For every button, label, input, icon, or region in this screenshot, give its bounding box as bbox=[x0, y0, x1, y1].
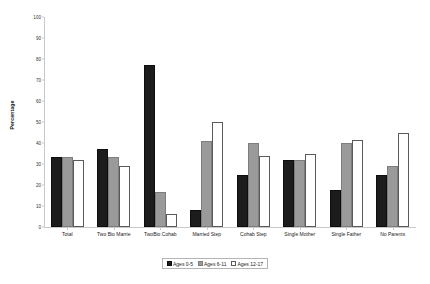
y-axis-title: Percentage bbox=[9, 85, 15, 145]
bar-group-bars bbox=[137, 17, 184, 227]
x-axis-tick-mark bbox=[207, 227, 208, 230]
bar bbox=[330, 190, 341, 227]
bar-group bbox=[91, 17, 138, 227]
bar-group-bars bbox=[277, 17, 324, 227]
bar-group bbox=[230, 17, 277, 227]
chart-legend: Ages 0-5 Ages 6-11 Ages 12-17 bbox=[162, 258, 268, 269]
bar bbox=[62, 157, 73, 227]
bar bbox=[283, 160, 294, 227]
bar bbox=[294, 160, 305, 227]
x-axis-tick-mark bbox=[300, 227, 301, 230]
bar-group-bars bbox=[44, 17, 91, 227]
bar bbox=[51, 157, 62, 227]
y-axis-tick-label: 90 bbox=[36, 36, 41, 41]
bar-group-bars bbox=[323, 17, 370, 227]
bar bbox=[201, 141, 212, 227]
y-axis-tick-label: 40 bbox=[36, 141, 41, 146]
x-axis-line bbox=[44, 227, 416, 228]
bar-group-bars bbox=[91, 17, 138, 227]
bar-group bbox=[184, 17, 231, 227]
x-axis-tick-label: No Parents bbox=[353, 231, 430, 237]
legend-label: Ages 0-5 bbox=[173, 261, 193, 267]
bar-group bbox=[323, 17, 370, 227]
legend-label: Ages 12-17 bbox=[237, 261, 263, 267]
x-axis-tick-mark bbox=[67, 227, 68, 230]
y-axis-tick-label: 20 bbox=[36, 183, 41, 188]
bar bbox=[73, 160, 84, 227]
bar bbox=[190, 210, 201, 227]
bar bbox=[398, 133, 409, 228]
bar bbox=[119, 166, 130, 227]
plot-area: 0102030405060708090100 TotalTwo Bio Marr… bbox=[44, 17, 416, 227]
legend-label: Ages 6-11 bbox=[204, 261, 226, 267]
x-axis-tick-mark bbox=[114, 227, 115, 230]
bar-group-bars bbox=[230, 17, 277, 227]
bar bbox=[376, 175, 387, 228]
bar-chart: Percentage 0102030405060708090100 TotalT… bbox=[0, 0, 430, 284]
y-axis-tick-label: 10 bbox=[36, 204, 41, 209]
bar bbox=[108, 157, 119, 227]
bar bbox=[144, 65, 155, 227]
y-axis-tick-label: 80 bbox=[36, 57, 41, 62]
legend-swatch-icon bbox=[231, 261, 236, 266]
bar bbox=[248, 143, 259, 227]
y-axis-tick-label: 100 bbox=[33, 15, 41, 20]
bar bbox=[212, 122, 223, 227]
bar bbox=[305, 154, 316, 228]
x-axis-tick-mark bbox=[253, 227, 254, 230]
bar bbox=[352, 140, 363, 227]
legend-swatch-icon bbox=[198, 261, 203, 266]
x-axis-tick-mark bbox=[160, 227, 161, 230]
legend-item: Ages 6-11 bbox=[198, 261, 226, 267]
bar-group bbox=[277, 17, 324, 227]
bar bbox=[237, 175, 248, 228]
bar-group-bars bbox=[184, 17, 231, 227]
bar bbox=[97, 149, 108, 227]
bar bbox=[155, 192, 166, 227]
y-axis-tick-label: 60 bbox=[36, 99, 41, 104]
x-axis-tick-mark bbox=[393, 227, 394, 230]
y-axis-tick-label: 30 bbox=[36, 162, 41, 167]
bar bbox=[259, 156, 270, 227]
bar bbox=[341, 143, 352, 227]
bar bbox=[387, 166, 398, 227]
bar-group bbox=[370, 17, 417, 227]
legend-swatch-icon bbox=[167, 261, 172, 266]
x-axis-tick-mark bbox=[346, 227, 347, 230]
y-axis-tick-label: 50 bbox=[36, 120, 41, 125]
legend-item: Ages 12-17 bbox=[231, 261, 263, 267]
y-axis-tick-label: 70 bbox=[36, 78, 41, 83]
bar bbox=[166, 214, 177, 227]
legend-item: Ages 0-5 bbox=[167, 261, 193, 267]
bar-group bbox=[44, 17, 91, 227]
bar-group bbox=[137, 17, 184, 227]
bar-group-bars bbox=[370, 17, 417, 227]
